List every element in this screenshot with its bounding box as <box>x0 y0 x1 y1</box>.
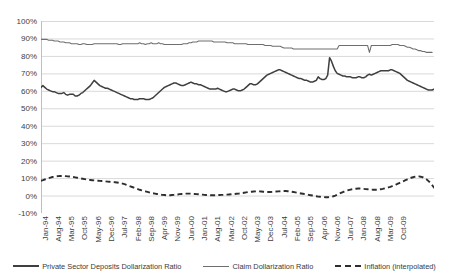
legend-item-deposits: Private Sector Deposits Dollarization Ra… <box>13 262 181 271</box>
x-axis-tick-label: Sep-05 <box>306 216 315 242</box>
y-axis-tick-label: 100% <box>17 17 37 26</box>
x-axis-tick-label: Apr-06 <box>319 216 328 240</box>
x-axis-tick-label: Oct-02 <box>239 216 248 240</box>
series-line-inflation-interpolated <box>41 176 434 197</box>
y-axis-tick-label: 60% <box>21 86 37 95</box>
y-axis-tick-label: 50% <box>21 104 37 113</box>
y-axis-tick-label: 10% <box>21 174 37 183</box>
x-axis-tick-label: Oct-09 <box>399 216 408 240</box>
x-axis-tick-label: Mar-02 <box>226 216 235 241</box>
x-axis-tick-label: Feb-98 <box>133 216 142 241</box>
x-axis-tick-label: Jun-00 <box>186 216 195 240</box>
x-axis-tick-label: Feb-05 <box>293 216 302 241</box>
x-axis-tick-label: Nov-99 <box>173 216 182 242</box>
legend-swatch-solid-thin-icon <box>203 266 229 267</box>
legend-label-claims: Claim Dollarization Ratio <box>232 262 313 271</box>
x-axis-labels: Jan-94Aug-94Mar-95Oct-95May-96Dec-96Jul-… <box>41 216 434 256</box>
x-axis-tick-label: May-03 <box>253 216 262 243</box>
x-axis-tick-label: Apr-99 <box>160 216 169 240</box>
chart-legend: Private Sector Deposits Dollarization Ra… <box>0 256 449 276</box>
y-axis-tick-label: 80% <box>21 51 37 60</box>
x-axis-tick-label: Nov-06 <box>332 216 341 242</box>
x-axis-tick-label: Mar-09 <box>386 216 395 241</box>
x-axis-tick-label: Jul-97 <box>120 216 129 238</box>
x-axis-tick-label: May-96 <box>93 216 102 243</box>
x-axis-tick-label: Jan-94 <box>40 216 49 240</box>
x-axis-tick-label: Oct-95 <box>80 216 89 240</box>
y-axis-tick-label: -10% <box>18 209 37 218</box>
x-axis-tick-label: Jan-08 <box>359 216 368 240</box>
x-axis-tick-label: Jul-04 <box>279 216 288 238</box>
series-line-claim-dollarization-ratio <box>41 39 432 52</box>
y-axis-tick-label: 90% <box>21 34 37 43</box>
x-axis-tick-label: Aug-08 <box>372 216 381 242</box>
gridlines <box>41 21 434 213</box>
legend-label-deposits: Private Sector Deposits Dollarization Ra… <box>42 262 181 271</box>
legend-item-claims: Claim Dollarization Ratio <box>203 262 313 271</box>
y-axis-tick-label: 70% <box>21 69 37 78</box>
plot-area <box>41 21 434 213</box>
x-axis-tick-label: Jun-07 <box>346 216 355 240</box>
x-axis-tick-label: Dec-96 <box>106 216 115 242</box>
y-axis-tick-label: 0% <box>25 191 37 200</box>
y-axis-tick-label: 20% <box>21 156 37 165</box>
x-axis-tick-label: Aug-01 <box>213 216 222 242</box>
x-axis-tick-label: Sep-98 <box>146 216 155 242</box>
legend-label-inflation: Inflation (interpolated) <box>364 262 436 271</box>
y-axis-tick-label: 40% <box>21 121 37 130</box>
x-axis-tick-label: Mar-95 <box>67 216 76 241</box>
y-axis-labels: 100%90%80%70%60%50%40%30%20%10%0%-10% <box>0 21 37 213</box>
x-axis-tick-label: Dec-03 <box>266 216 275 242</box>
chart-container: 100%90%80%70%60%50%40%30%20%10%0%-10% Ja… <box>0 0 449 279</box>
chart-svg <box>41 21 434 213</box>
legend-swatch-solid-thick-icon <box>13 265 39 267</box>
series-line-private-sector-deposits-dollarization-ratio <box>41 58 434 100</box>
x-axis-tick-label: Aug-94 <box>53 216 62 242</box>
x-axis-tick-label: Jan-01 <box>199 216 208 240</box>
legend-item-inflation: Inflation (interpolated) <box>335 262 436 271</box>
y-axis-tick-label: 30% <box>21 139 37 148</box>
legend-swatch-dashed-icon <box>335 265 361 267</box>
